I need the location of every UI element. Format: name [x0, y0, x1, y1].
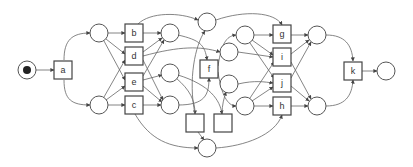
place-start[interactable]	[18, 61, 36, 79]
place-after-e[interactable]	[161, 64, 179, 82]
transition-k[interactable]: k	[344, 62, 362, 80]
places	[18, 13, 395, 157]
place-before-g[interactable]	[236, 26, 254, 44]
transition-j[interactable]: j	[273, 74, 291, 92]
place-bottom[interactable]	[198, 139, 216, 157]
svg-text:k: k	[351, 66, 356, 76]
place-mid-upper[interactable]	[220, 43, 238, 61]
place-mid-lower[interactable]	[220, 75, 238, 93]
token-icon	[23, 66, 31, 74]
transition-d[interactable]: d	[125, 47, 143, 65]
svg-text:b: b	[131, 28, 136, 38]
place-p1[interactable]	[90, 24, 108, 42]
place-before-h[interactable]	[236, 97, 254, 115]
place-before-k-upper[interactable]	[308, 26, 326, 44]
svg-text:a: a	[60, 65, 65, 75]
transition-e[interactable]: e	[125, 73, 143, 91]
transition-g[interactable]: g	[273, 25, 291, 43]
svg-text:c: c	[132, 100, 137, 110]
svg-text:i: i	[281, 52, 283, 62]
place-p2[interactable]	[90, 96, 108, 114]
place-after-c[interactable]	[161, 96, 179, 114]
transition-b[interactable]: b	[125, 24, 143, 42]
transition-unlabeled-1[interactable]	[186, 114, 204, 132]
svg-text:d: d	[131, 51, 136, 61]
svg-text:j: j	[280, 78, 283, 88]
place-before-k-lower[interactable]	[308, 97, 326, 115]
place-end[interactable]	[377, 62, 395, 80]
place-top[interactable]	[198, 13, 216, 31]
transition-i[interactable]: i	[273, 48, 291, 66]
transition-c[interactable]: c	[125, 96, 143, 114]
svg-text:e: e	[131, 77, 136, 87]
transition-h[interactable]: h	[273, 97, 291, 115]
place-after-b[interactable]	[161, 24, 179, 42]
petri-net-diagram: a b d e c f g	[0, 0, 413, 167]
transition-f[interactable]: f	[200, 60, 218, 78]
svg-text:h: h	[279, 101, 284, 111]
transition-unlabeled-2[interactable]	[214, 114, 232, 132]
svg-text:g: g	[279, 29, 284, 39]
transition-a[interactable]: a	[54, 61, 72, 79]
